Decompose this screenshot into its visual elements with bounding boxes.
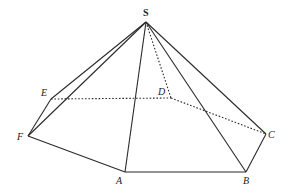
label-vertex-f: F	[17, 132, 23, 142]
edge-sb	[146, 22, 246, 172]
edges-group	[28, 22, 266, 172]
edge-fa	[28, 136, 125, 172]
edge-sf	[28, 22, 146, 136]
label-vertex-d: D	[158, 87, 165, 97]
label-vertex-s: S	[143, 8, 149, 18]
label-vertex-b: B	[243, 176, 249, 186]
label-vertex-a: A	[116, 176, 122, 186]
edge-ed	[51, 98, 171, 99]
edge-se	[51, 22, 146, 99]
pyramid-diagram: S A B C D E F	[0, 0, 290, 194]
edge-bc	[246, 134, 266, 172]
edge-sa	[125, 22, 146, 172]
label-vertex-c: C	[268, 130, 275, 140]
label-vertex-e: E	[41, 88, 47, 98]
edge-dc	[171, 98, 266, 134]
